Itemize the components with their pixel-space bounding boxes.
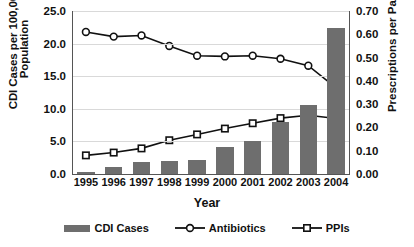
marker-antibiotics [305, 62, 312, 69]
y-axis-left-tick-label: 10.0 [22, 103, 66, 115]
y-axis-right-tick-label: 0.70 [356, 5, 400, 17]
chart-legend: CDI CasesAntibioticsPPIs [0, 222, 414, 234]
y-axis-left-tick-label: 25.0 [22, 5, 66, 17]
x-axis-tick-label: 1997 [129, 176, 153, 188]
legend-label: CDI Cases [94, 222, 148, 234]
marker-ppis [166, 137, 172, 143]
x-axis-tick-label: 2002 [268, 176, 292, 188]
bar-cdi-cases [161, 161, 178, 174]
bar-cdi-cases [327, 28, 344, 174]
y-axis-left-tick-label: 5.0 [22, 135, 66, 147]
marker-ppis [222, 125, 228, 131]
gridline [72, 11, 350, 12]
marker-ppis [83, 152, 89, 158]
marker-ppis [250, 120, 256, 126]
gridline [72, 44, 350, 45]
legend-item[interactable]: PPIs [292, 222, 350, 234]
y-axis-right-tick-label: 0.10 [356, 145, 400, 157]
x-axis-tick-label: 1995 [74, 176, 98, 188]
legend-bar-swatch-icon [64, 225, 90, 232]
marker-ppis [194, 131, 200, 137]
bar-cdi-cases [244, 141, 261, 174]
bar-cdi-cases [188, 160, 205, 174]
marker-antibiotics [138, 32, 145, 39]
marker-antibiotics [83, 29, 90, 36]
y-axis-right-tick-label: 0.60 [356, 28, 400, 40]
x-axis-tick-label: 2001 [240, 176, 264, 188]
y-axis-right-line [349, 11, 350, 174]
marker-antibiotics [249, 52, 256, 59]
plot-area [72, 11, 350, 174]
y-axis-left-line [72, 11, 73, 174]
y-axis-right-tick-label: 0.40 [356, 75, 400, 87]
marker-antibiotics [110, 33, 117, 40]
y-axis-right-tick-label: 0.00 [356, 168, 400, 180]
x-axis-tick-label: 1998 [157, 176, 181, 188]
marker-antibiotics [222, 53, 229, 60]
legend-item[interactable]: CDI Cases [64, 222, 148, 234]
marker-antibiotics [194, 52, 201, 59]
bar-cdi-cases [300, 105, 317, 174]
x-axis-title: Year [0, 196, 414, 210]
legend-label: PPIs [326, 222, 350, 234]
y-axis-right-tick-label: 0.30 [356, 98, 400, 110]
line-ppis [86, 115, 336, 155]
y-axis-left-tick-label: 15.0 [22, 70, 66, 82]
marker-ppis [277, 115, 283, 121]
x-axis-tick-label: 2000 [213, 176, 237, 188]
bar-cdi-cases [216, 147, 233, 174]
y-axis-left-tick-label: 0.0 [22, 168, 66, 180]
x-axis-tick-label: 2003 [296, 176, 320, 188]
legend-square-line-icon [292, 222, 322, 234]
x-axis-tick-label: 2004 [324, 176, 348, 188]
y-axis-left-tick-label: 20.0 [22, 38, 66, 50]
marker-antibiotics [277, 55, 284, 62]
legend-item[interactable]: Antibiotics [175, 222, 266, 234]
gridline [72, 76, 350, 77]
x-axis-line [72, 174, 350, 175]
marker-ppis [111, 149, 117, 155]
legend-circle-line-icon [175, 222, 205, 234]
chart-figure: CDI Cases per 100,000 Population Prescri… [0, 0, 414, 247]
x-axis-tick-label: 1999 [185, 176, 209, 188]
bar-cdi-cases [272, 122, 289, 174]
y-axis-right-tick-label: 0.50 [356, 52, 400, 64]
y-axis-right-tick-label: 0.20 [356, 121, 400, 133]
bar-cdi-cases [105, 167, 122, 174]
marker-ppis [138, 145, 144, 151]
bar-cdi-cases [133, 162, 150, 174]
legend-label: Antibiotics [209, 222, 266, 234]
x-axis-tick-label: 1996 [101, 176, 125, 188]
line-antibiotics [86, 32, 336, 88]
